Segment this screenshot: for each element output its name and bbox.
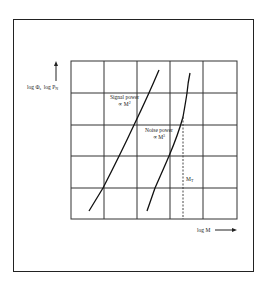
threshold-label: MT (186, 176, 193, 184)
noise-power-label: Noise power ∝ M3 (145, 127, 173, 140)
x-axis-arrow (215, 228, 237, 232)
signal-power-curve (89, 70, 159, 211)
grid (71, 61, 237, 219)
signal-label-line2: ∝ M (118, 101, 128, 107)
signal-power-label: Signal power ∝ M2 (110, 94, 139, 107)
threshold-label-sub: T (191, 178, 193, 183)
x-axis-label: log M (197, 227, 210, 233)
chart-plot (0, 0, 266, 282)
noise-power-curve (147, 73, 190, 211)
y-axis-arrow (54, 61, 58, 81)
signal-label-exp: 2 (129, 100, 131, 105)
y-axis-label: log Φs log PN (27, 84, 58, 92)
y-label-p-sub: N (55, 86, 58, 91)
y-label-phi: log Φ (27, 84, 39, 90)
noise-label-line2: ∝ M (153, 134, 163, 140)
noise-label-exp: 3 (163, 133, 165, 138)
y-label-p: log P (44, 84, 55, 90)
y-label-phi-sub: s (39, 86, 41, 91)
